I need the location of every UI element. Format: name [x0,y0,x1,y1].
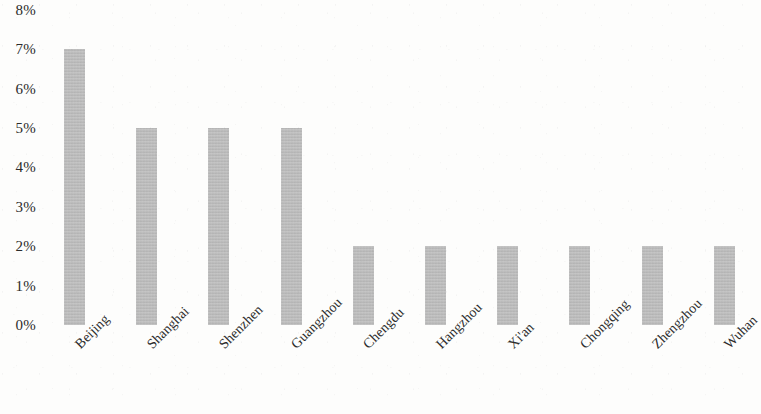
bar[interactable] [136,128,157,325]
y-tick-label-8: 8% [16,2,36,19]
bar[interactable] [642,246,663,325]
bar-group: Chengdu [353,0,374,414]
bar[interactable] [425,246,446,325]
bar-group: Shenzhen [208,0,229,414]
bar-group: Wuhan [714,0,735,414]
bar[interactable] [569,246,590,325]
y-tick-label-6: 6% [16,81,36,98]
bar[interactable] [353,246,374,325]
bar[interactable] [208,128,229,325]
bar[interactable] [281,128,302,325]
y-tick-label-3: 3% [16,199,36,216]
plot-area: BeijingShanghaiShenzhenGuangzhouChengduH… [44,0,744,414]
bar-group: Chongqing [569,0,590,414]
y-tick-label-2: 2% [16,238,36,255]
bar-group: Zhengzhou [642,0,663,414]
y-tick-label-0: 0% [16,317,36,334]
bar[interactable] [497,246,518,325]
bar-group: Hangzhou [425,0,446,414]
y-tick-label-1: 1% [16,278,36,295]
bar[interactable] [64,49,85,325]
bar-group: Xi'an [497,0,518,414]
y-tick-label-7: 7% [16,41,36,58]
bar[interactable] [714,246,735,325]
bar-group: Beijing [64,0,85,414]
y-axis: 8% 7% 6% 5% 4% 3% 2% 1% 0% [0,0,44,414]
y-tick-label-4: 4% [16,159,36,176]
bar-group: Shanghai [136,0,157,414]
bar-group: Guangzhou [281,0,302,414]
y-tick-label-5: 5% [16,120,36,137]
